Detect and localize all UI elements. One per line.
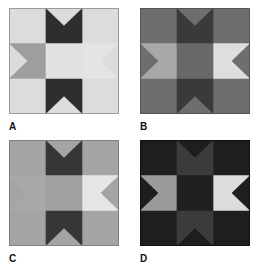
center-square (177, 175, 214, 210)
panel-d (140, 140, 250, 246)
panel-a-label: A (9, 122, 16, 132)
panel-a (9, 8, 119, 114)
panel-d-label: D (140, 254, 147, 264)
center-square (46, 43, 83, 78)
center-square (46, 175, 83, 210)
panel-b (140, 8, 250, 114)
center-square (177, 43, 214, 78)
panel-c-label: C (9, 254, 16, 264)
panel-c (9, 140, 119, 246)
panel-b-label: B (140, 122, 147, 132)
